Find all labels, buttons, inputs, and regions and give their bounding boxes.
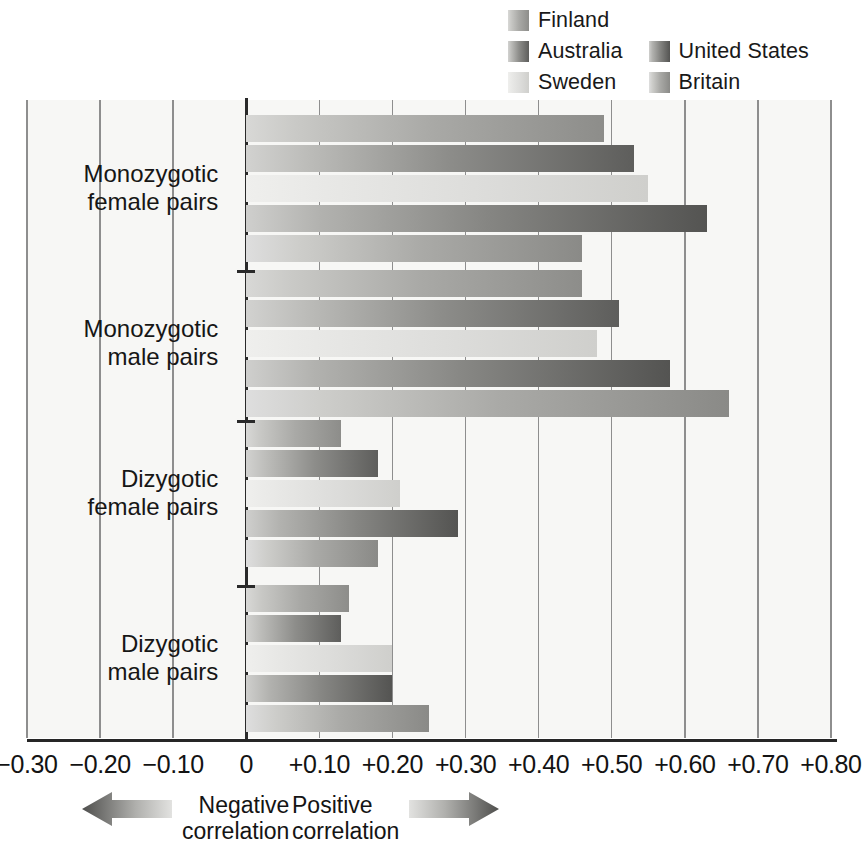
legend-swatch-australia-icon xyxy=(508,41,529,62)
bar-britain-2 xyxy=(246,540,378,567)
category-label-3: Dizygotic male pairs xyxy=(18,630,218,686)
x-tick-label-6: +0.30 xyxy=(435,750,496,779)
bar-united-states-3 xyxy=(246,675,392,702)
left-arrow-icon xyxy=(82,792,172,826)
bar-australia-2 xyxy=(246,450,378,477)
x-tick-label-8: +0.50 xyxy=(581,750,642,779)
bar-sweden-2 xyxy=(246,480,399,507)
group-separator-tick-0 xyxy=(237,270,255,273)
positive-correlation-label: Positive correlation xyxy=(292,792,399,844)
group-separator-tick-1 xyxy=(237,420,255,423)
bar-britain-1 xyxy=(246,390,728,417)
bar-united-states-1 xyxy=(246,360,670,387)
x-tick-label-9: +0.60 xyxy=(654,750,715,779)
bar-australia-0 xyxy=(246,145,633,172)
category-label-2: Dizygotic female pairs xyxy=(18,465,218,521)
bar-australia-1 xyxy=(246,300,619,327)
legend-label-united-states: United States xyxy=(679,39,809,64)
bar-finland-1 xyxy=(246,270,582,297)
x-tick-label-10: +0.70 xyxy=(727,750,788,779)
positive-correlation-key: Positive correlation xyxy=(292,792,499,844)
negative-correlation-label: Negative correlation xyxy=(182,792,289,844)
legend-item-sweden[interactable]: Sweden xyxy=(508,68,623,96)
legend-label-finland: Finland xyxy=(538,8,609,33)
x-tick-label-11: +0.80 xyxy=(800,750,861,779)
bar-britain-0 xyxy=(246,235,582,262)
bar-finland-3 xyxy=(246,585,348,612)
bar-united-states-2 xyxy=(246,510,458,537)
bar-united-states-0 xyxy=(246,205,706,232)
category-label-1: Monozygotic male pairs xyxy=(18,315,218,371)
right-arrow-icon xyxy=(409,792,499,826)
category-label-0: Monozygotic female pairs xyxy=(18,160,218,216)
chart-legend: Finland Australia United States Sweden B… xyxy=(508,6,809,96)
x-tick-label-3: 0 xyxy=(240,750,254,779)
x-axis-tick-labels: −0.30−0.20−0.100+0.10+0.20+0.30+0.40+0.5… xyxy=(0,750,851,786)
x-tick-label-2: −0.10 xyxy=(143,750,204,779)
x-axis-line xyxy=(27,739,837,742)
legend-item-united-states[interactable]: United States xyxy=(649,37,809,65)
legend-label-sweden: Sweden xyxy=(538,70,616,95)
x-tick-label-0: −0.30 xyxy=(0,750,58,779)
correlation-direction-key: Negative correlation Positive correlatio… xyxy=(0,792,851,847)
bar-finland-0 xyxy=(246,115,604,142)
legend-item-australia[interactable]: Australia xyxy=(508,37,623,65)
bar-sweden-1 xyxy=(246,330,597,357)
x-tick-label-1: −0.20 xyxy=(69,750,130,779)
x-tick-label-7: +0.40 xyxy=(508,750,569,779)
legend-swatch-sweden-icon xyxy=(508,72,529,93)
x-tick-label-4: +0.10 xyxy=(289,750,350,779)
legend-label-australia: Australia xyxy=(538,39,623,64)
x-tick-label-5: +0.20 xyxy=(362,750,423,779)
bar-sweden-3 xyxy=(246,645,392,672)
bar-britain-3 xyxy=(246,705,429,732)
bar-finland-2 xyxy=(246,420,341,447)
legend-item-finland[interactable]: Finland xyxy=(508,6,623,34)
legend-item-britain[interactable]: Britain xyxy=(649,68,809,96)
legend-label-britain: Britain xyxy=(679,70,741,95)
legend-swatch-united-states-icon xyxy=(649,41,670,62)
legend-swatch-britain-icon xyxy=(649,72,670,93)
legend-swatch-finland-icon xyxy=(508,10,529,31)
group-separator-tick-2 xyxy=(237,585,255,588)
bar-sweden-0 xyxy=(246,175,648,202)
negative-correlation-key: Negative correlation xyxy=(82,792,289,844)
bar-australia-3 xyxy=(246,615,341,642)
